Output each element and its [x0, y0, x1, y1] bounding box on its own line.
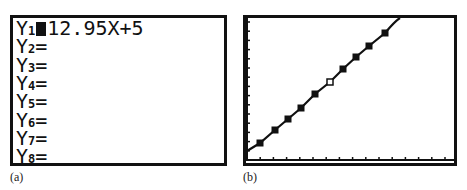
data-point-marker [312, 91, 318, 97]
data-point-marker [382, 30, 388, 36]
data-point-marker [285, 116, 291, 122]
data-point-marker [272, 127, 278, 133]
caption-a: (a) [10, 170, 23, 185]
data-point-marker [353, 54, 359, 60]
caption-b: (b) [243, 170, 257, 185]
data-point-marker [340, 66, 346, 72]
regression-line [247, 18, 400, 151]
open-data-point-marker [327, 79, 333, 85]
data-point-marker [298, 105, 304, 111]
var-label: Y [16, 144, 28, 168]
y-equals-editor-screen: Y112.95X+5Y2=Y3=Y4=Y5=Y6=Y7=Y8= [10, 15, 227, 166]
graph-screen [243, 15, 457, 166]
graph-plot [246, 18, 454, 163]
function-line-y8[interactable]: Y8= [16, 147, 47, 169]
data-point-marker [366, 43, 372, 49]
function-expression[interactable]: 12.95X+5 [47, 16, 143, 40]
data-point-marker [257, 140, 263, 146]
equals-sign: = [35, 144, 47, 168]
